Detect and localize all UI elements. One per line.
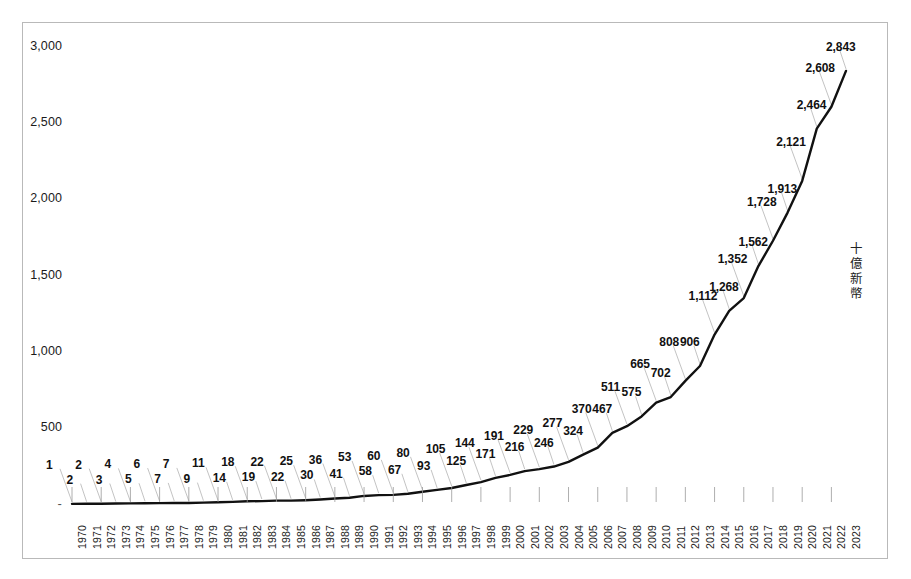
x-axis-tick-label: 1985 bbox=[295, 525, 307, 549]
data-point-label: 665 bbox=[630, 357, 650, 371]
data-point-label: 808 bbox=[659, 335, 679, 349]
x-axis-tick-label: 2018 bbox=[777, 525, 789, 549]
data-point-label: 467 bbox=[592, 402, 612, 416]
data-point-label: 9 bbox=[183, 472, 190, 486]
y-axis-tick-label: 500 bbox=[6, 420, 62, 434]
data-point-label: 1 bbox=[46, 458, 53, 472]
x-axis-tick-label: 2000 bbox=[514, 525, 526, 549]
x-axis-tick-label: 1986 bbox=[310, 525, 322, 549]
data-point-label: 324 bbox=[563, 424, 583, 438]
data-point-label: 216 bbox=[505, 440, 525, 454]
data-point-label: 5 bbox=[125, 472, 132, 486]
data-point-label: 36 bbox=[309, 453, 322, 467]
data-point-label: 246 bbox=[534, 436, 554, 450]
y-axis-tick-label: 1,500 bbox=[6, 268, 62, 282]
data-point-label: 229 bbox=[513, 423, 533, 437]
data-point-label: 67 bbox=[388, 463, 401, 477]
data-point-label: 2 bbox=[67, 473, 74, 487]
data-point-label: 22 bbox=[271, 470, 284, 484]
x-axis-tick-label: 1974 bbox=[134, 525, 146, 549]
data-point-label: 58 bbox=[359, 464, 372, 478]
x-axis-tick-label: 1977 bbox=[178, 525, 190, 549]
data-point-label: 575 bbox=[622, 385, 642, 399]
x-axis-tick-label: 2002 bbox=[543, 525, 555, 549]
data-point-label: 18 bbox=[221, 455, 234, 469]
x-axis-tick-label: 1984 bbox=[280, 525, 292, 549]
data-point-label: 4 bbox=[104, 457, 111, 471]
x-axis-tick-label: 1993 bbox=[412, 525, 424, 549]
x-axis-tick-label: 1997 bbox=[470, 525, 482, 549]
data-point-label: 1,562 bbox=[738, 235, 768, 249]
x-axis-tick-label: 2008 bbox=[631, 525, 643, 549]
x-axis-tick-label: 2013 bbox=[704, 525, 716, 549]
data-point-label: 22 bbox=[250, 455, 263, 469]
x-axis-tick-label: 1978 bbox=[193, 525, 205, 549]
x-axis-tick-label: 2016 bbox=[748, 525, 760, 549]
data-point-label: 3 bbox=[96, 473, 103, 487]
data-point-label: 2,464 bbox=[797, 98, 827, 112]
x-axis-tick-label: 1976 bbox=[164, 525, 176, 549]
data-point-label: 2,121 bbox=[776, 135, 806, 149]
y-axis-tick-label: 3,000 bbox=[6, 39, 62, 53]
data-point-label: 2,843 bbox=[826, 40, 856, 54]
data-point-label: 277 bbox=[543, 416, 563, 430]
x-axis-tick-label: 1996 bbox=[456, 525, 468, 549]
data-point-label: 511 bbox=[601, 380, 620, 394]
data-point-label: 105 bbox=[426, 442, 446, 456]
x-axis-tick-label: 2020 bbox=[806, 525, 818, 549]
x-axis-tick-label: 2021 bbox=[821, 525, 833, 549]
data-point-label: 80 bbox=[396, 446, 409, 460]
data-point-label: 370 bbox=[572, 402, 592, 416]
x-axis-tick-label: 2015 bbox=[733, 525, 745, 549]
data-point-label: 60 bbox=[367, 449, 380, 463]
x-axis-tick-label: 1994 bbox=[426, 525, 438, 549]
data-point-label: 6 bbox=[134, 457, 141, 471]
x-axis-tick-label: 1979 bbox=[207, 525, 219, 549]
y-axis-tick-label: 1,000 bbox=[6, 344, 62, 358]
data-point-label: 702 bbox=[651, 366, 671, 380]
x-axis-tick-label: 1989 bbox=[353, 525, 365, 549]
data-point-label: 1,728 bbox=[747, 195, 777, 209]
data-point-label: 191 bbox=[484, 429, 504, 443]
x-axis-tick-label: 1981 bbox=[237, 525, 249, 549]
data-point-label: 7 bbox=[154, 472, 161, 486]
x-axis-tick-label: 1970 bbox=[76, 525, 88, 549]
x-axis-tick-label: 1971 bbox=[91, 525, 103, 549]
x-axis-tick-label: 2003 bbox=[558, 525, 570, 549]
x-axis-tick-label: 1995 bbox=[441, 525, 453, 549]
x-axis-tick-label: 1972 bbox=[105, 525, 117, 549]
x-axis-tick-label: 2019 bbox=[792, 525, 804, 549]
x-axis-tick-label: 1998 bbox=[485, 525, 497, 549]
x-axis-tick-label: 2004 bbox=[573, 525, 585, 549]
chart-plot-frame bbox=[22, 22, 888, 559]
x-axis-tick-label: 2017 bbox=[762, 525, 774, 549]
data-point-label: 30 bbox=[300, 468, 313, 482]
data-point-label: 1,913 bbox=[768, 182, 798, 196]
data-point-label: 144 bbox=[455, 436, 475, 450]
y-axis-tick-label: 2,000 bbox=[6, 191, 62, 205]
data-point-label: 1,352 bbox=[718, 252, 748, 266]
x-axis-tick-label: 2014 bbox=[719, 525, 731, 549]
x-axis-tick-label: 1982 bbox=[251, 525, 263, 549]
x-axis-tick-label: 2023 bbox=[850, 525, 862, 549]
x-axis-tick-label: 1980 bbox=[222, 525, 234, 549]
data-point-label: 53 bbox=[338, 450, 351, 464]
x-axis-tick-label: 2011 bbox=[675, 526, 687, 549]
y-axis-title: 十億新幣 bbox=[845, 242, 864, 302]
data-point-label: 14 bbox=[213, 471, 226, 485]
x-axis-tick-label: 2006 bbox=[602, 525, 614, 549]
x-axis-tick-label: 2012 bbox=[689, 525, 701, 549]
data-point-label: 171 bbox=[476, 447, 496, 461]
data-point-label: 1,268 bbox=[709, 280, 739, 294]
data-point-label: 25 bbox=[280, 454, 293, 468]
x-axis-tick-label: 1991 bbox=[383, 525, 395, 549]
data-point-label: 93 bbox=[417, 459, 430, 473]
x-axis-tick-label: 1992 bbox=[397, 525, 409, 549]
x-axis-tick-label: 1987 bbox=[324, 525, 336, 549]
data-point-label: 41 bbox=[329, 467, 342, 481]
x-axis-tick-label: 2007 bbox=[616, 525, 628, 549]
x-axis-tick-label: 1990 bbox=[368, 525, 380, 549]
x-axis-tick-label: 2005 bbox=[587, 525, 599, 549]
y-axis-tick-label: 2,500 bbox=[6, 115, 62, 129]
x-axis-tick-label: 1973 bbox=[120, 525, 132, 549]
